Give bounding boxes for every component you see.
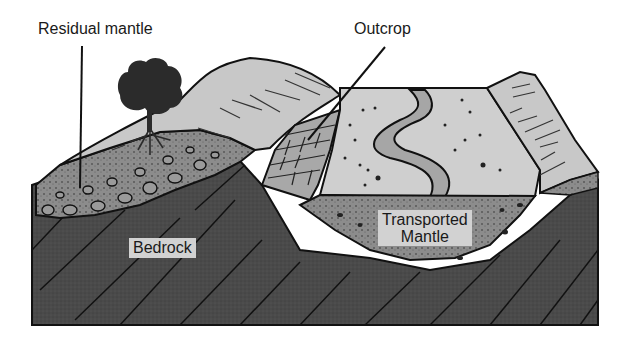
label-transported-line2: Mantle	[382, 228, 468, 245]
label-bedrock: Bedrock	[129, 238, 196, 258]
geologic-block-diagram	[0, 0, 622, 343]
label-outcrop: Outcrop	[354, 20, 411, 38]
label-transported-line1: Transported	[382, 211, 468, 228]
label-residual-mantle: Residual mantle	[38, 20, 153, 38]
label-transported-mantle: Transported Mantle	[378, 210, 472, 246]
